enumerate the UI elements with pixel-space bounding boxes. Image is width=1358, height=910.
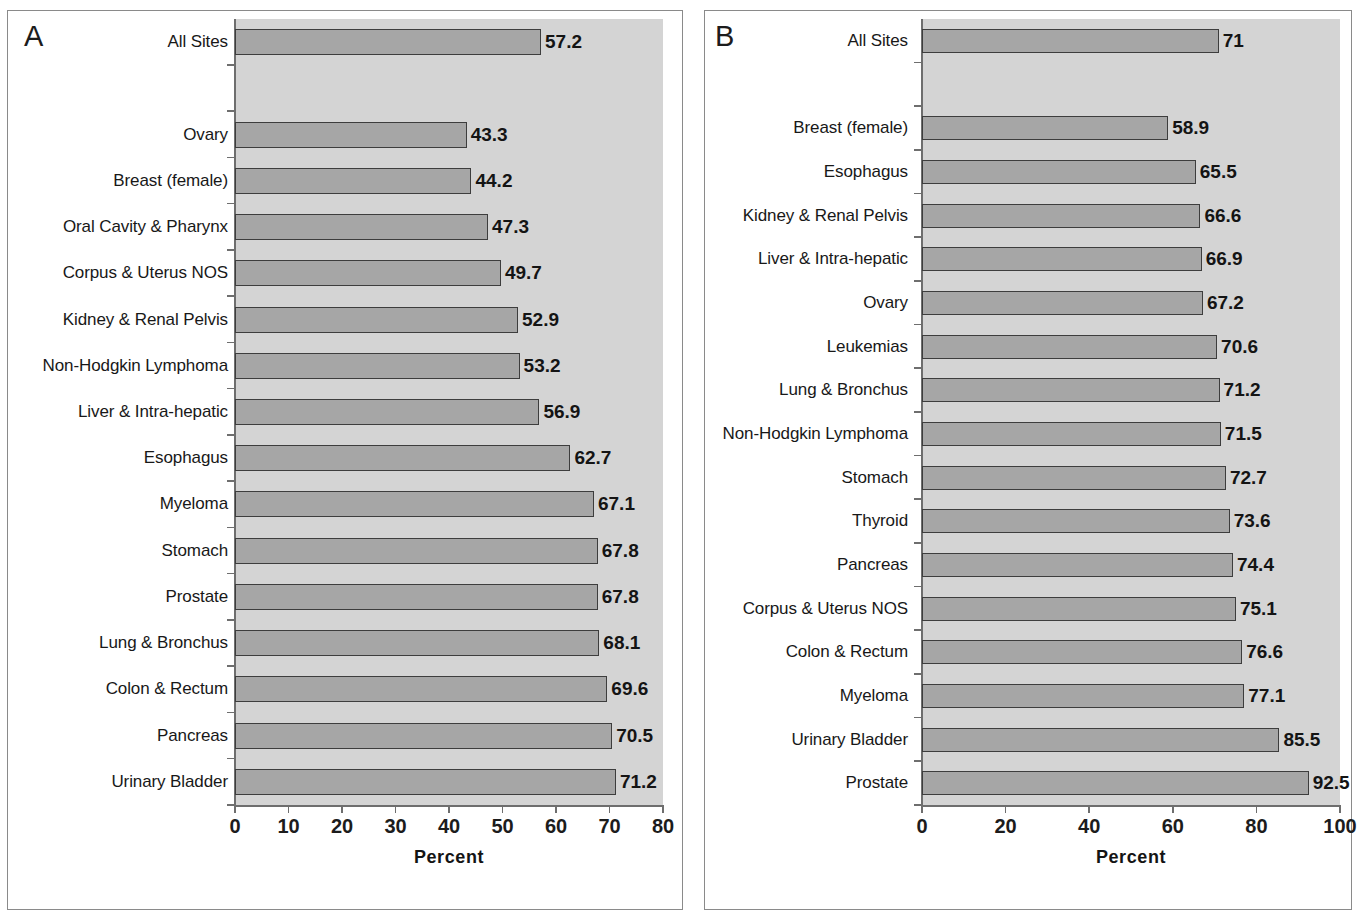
- y-axis-tick: [227, 619, 234, 621]
- category-label: All Sites: [847, 32, 908, 49]
- bar-value-label: 70.6: [1221, 337, 1258, 356]
- bar-value-label: 57.2: [545, 32, 582, 51]
- bar-value-label: 67.1: [598, 494, 635, 513]
- x-axis-tick: [662, 806, 664, 813]
- x-axis-tick: [921, 806, 923, 813]
- y-axis-tick: [227, 758, 234, 760]
- y-axis-tick: [227, 249, 234, 251]
- x-axis-b: [921, 805, 1341, 807]
- bar: [235, 584, 598, 610]
- bar-value-label: 68.1: [603, 633, 640, 652]
- bar-value-label: 67.8: [602, 587, 639, 606]
- category-label: Non-Hodgkin Lymphoma: [43, 357, 228, 374]
- bar-value-label: 56.9: [543, 402, 580, 421]
- category-label: Thyroid: [852, 512, 908, 529]
- bar-value-label: 69.6: [611, 679, 648, 698]
- y-axis-tick: [914, 542, 921, 544]
- bar-value-label: 71.2: [620, 772, 657, 791]
- bar: [235, 307, 518, 333]
- category-label: Pancreas: [837, 556, 908, 573]
- bar-value-label: 85.5: [1283, 730, 1320, 749]
- category-label: Colon & Rectum: [786, 643, 908, 660]
- bar: [235, 676, 607, 702]
- category-label: Ovary: [863, 294, 908, 311]
- y-axis-tick: [914, 804, 921, 806]
- y-axis-tick: [227, 712, 234, 714]
- category-label: Non-Hodgkin Lymphoma: [723, 425, 908, 442]
- category-label: All Sites: [167, 33, 228, 50]
- bar-value-label: 73.6: [1234, 511, 1271, 530]
- category-label: Liver & Intra-hepatic: [758, 250, 908, 267]
- bar-value-label: 62.7: [574, 448, 611, 467]
- y-axis-tick: [914, 367, 921, 369]
- x-axis-tick: [1005, 806, 1007, 813]
- bar-value-label: 43.3: [471, 125, 508, 144]
- bar-value-label: 77.1: [1248, 686, 1285, 705]
- bar-value-label: 44.2: [475, 171, 512, 190]
- x-axis-tick-label: 40: [1078, 816, 1100, 836]
- bar: [922, 684, 1244, 708]
- category-label: Pancreas: [157, 727, 228, 744]
- x-axis-tick: [234, 806, 236, 813]
- x-axis-tick: [1172, 806, 1174, 813]
- x-axis-tick-label: 60: [545, 816, 567, 836]
- x-axis-tick: [395, 806, 397, 813]
- category-label: Corpus & Uterus NOS: [63, 264, 228, 281]
- bar-value-label: 53.2: [524, 356, 561, 375]
- bar-value-label: 75.1: [1240, 599, 1277, 618]
- y-axis-tick: [914, 717, 921, 719]
- category-label: Corpus & Uterus NOS: [743, 600, 908, 617]
- y-axis-tick: [914, 280, 921, 282]
- bar-value-label: 76.6: [1246, 642, 1283, 661]
- bar: [235, 399, 539, 425]
- bar-value-label: 71.5: [1225, 424, 1262, 443]
- category-label: Urinary Bladder: [791, 731, 908, 748]
- x-axis-tick-label: 20: [331, 816, 353, 836]
- category-label: Leukemias: [827, 338, 908, 355]
- x-axis-tick: [609, 806, 611, 813]
- category-label: Esophagus: [824, 163, 908, 180]
- category-label: Prostate: [165, 588, 228, 605]
- x-axis-tick-label: 0: [229, 816, 240, 836]
- x-axis-tick: [502, 806, 504, 813]
- y-axis-tick: [914, 760, 921, 762]
- y-axis-tick: [914, 629, 921, 631]
- bar: [922, 597, 1236, 621]
- bar: [922, 728, 1279, 752]
- bar: [922, 29, 1219, 53]
- y-axis-tick: [914, 193, 921, 195]
- y-axis-tick: [227, 480, 234, 482]
- y-axis-tick: [227, 157, 234, 159]
- bar: [235, 353, 520, 379]
- y-axis-tick: [227, 110, 234, 112]
- bar: [235, 445, 570, 471]
- bar: [235, 260, 501, 286]
- bar-value-label: 52.9: [522, 310, 559, 329]
- bar: [235, 491, 594, 517]
- bar: [922, 247, 1202, 271]
- category-label: Ovary: [183, 126, 228, 143]
- x-axis-tick-label: 100: [1323, 816, 1356, 836]
- bar-value-label: 67.2: [1207, 293, 1244, 312]
- panel-a: A All Sites57.2Ovary43.3Breast (female)4…: [0, 0, 690, 872]
- y-axis-tick: [227, 434, 234, 436]
- y-axis-tick: [914, 62, 921, 64]
- y-axis-tick: [227, 342, 234, 344]
- y-axis-tick: [227, 573, 234, 575]
- category-label: Urinary Bladder: [111, 773, 228, 790]
- bar: [235, 168, 471, 194]
- y-axis-tick: [914, 498, 921, 500]
- bar-value-label: 47.3: [492, 217, 529, 236]
- category-label: Stomach: [162, 542, 228, 559]
- category-label: Esophagus: [144, 449, 228, 466]
- bar: [922, 422, 1221, 446]
- bar: [922, 160, 1196, 184]
- category-label: Lung & Bronchus: [99, 634, 228, 651]
- category-label: Myeloma: [160, 495, 228, 512]
- category-label: Prostate: [845, 774, 908, 791]
- x-axis-tick: [288, 806, 290, 813]
- category-label: Oral Cavity & Pharynx: [63, 218, 228, 235]
- bar: [922, 553, 1233, 577]
- y-axis-tick: [227, 64, 234, 66]
